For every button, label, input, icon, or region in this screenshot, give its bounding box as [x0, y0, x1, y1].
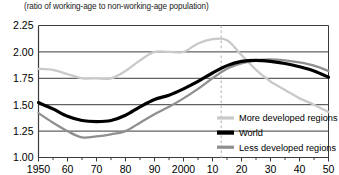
y-axis-tick-label: 2.25 [13, 19, 34, 31]
line-chart-svg: 1.001.251.501.752.002.251950607080902000… [0, 0, 339, 175]
legend-label-2: Less developed regions [239, 143, 336, 153]
x-axis-tick-label: 90 [149, 163, 161, 175]
x-axis-tick-label: 2000 [172, 163, 196, 175]
x-axis-tick-label: 50 [323, 163, 335, 175]
x-axis-tick-label: 40 [294, 163, 306, 175]
x-axis-tick-label: 10 [207, 163, 219, 175]
x-axis-tick-label: 1950 [27, 163, 51, 175]
x-axis-tick-label: 60 [62, 163, 74, 175]
chart-plot-area: 1.001.251.501.752.002.251950607080902000… [0, 0, 339, 175]
legend-label-1: World [239, 128, 263, 138]
y-axis-tick-label: 1.25 [13, 125, 34, 137]
x-axis-tick-label: 80 [120, 163, 132, 175]
x-axis-tick-label: 30 [265, 163, 277, 175]
chart-root: (ratio of working-age to non-working-age… [0, 0, 339, 175]
y-axis-tick-label: 1.50 [13, 99, 34, 111]
y-axis-tick-label: 2.00 [13, 46, 34, 58]
y-axis-tick-label: 1.00 [13, 151, 34, 163]
x-axis-tick-label: 20 [236, 163, 248, 175]
y-axis-tick-label: 1.75 [13, 72, 34, 84]
x-axis-tick-label: 70 [91, 163, 103, 175]
legend-label-0: More developed regions [239, 113, 338, 123]
